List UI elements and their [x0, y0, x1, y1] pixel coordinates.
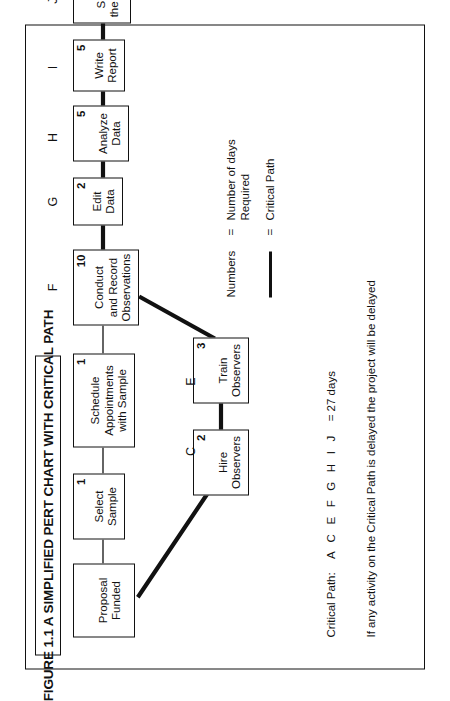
- legend-critical-path-swatch: [264, 235, 278, 297]
- legend-row-numbers: Numbers = Number of days Required: [225, 139, 253, 297]
- legend-numbers-equals: =: [225, 220, 239, 235]
- node-box-c[interactable]: 2 Hire Observers: [193, 429, 249, 495]
- node-days-b: 1: [75, 478, 88, 484]
- critical-path-note: If any activity on the Critical Path is …: [365, 280, 377, 637]
- node-label-e: Train Observers: [217, 338, 244, 402]
- legend-numbers-value: Number of days Required: [225, 139, 253, 220]
- node-label-i: Write Report: [93, 40, 120, 90]
- critical-path-summary-total: = 27 days: [325, 371, 337, 421]
- node-days-f: 10: [75, 254, 88, 267]
- legend-critical-path-value: Critical Path: [264, 158, 278, 220]
- node-box-j[interactable]: Submit the Report: [73, 0, 131, 23]
- node-box-h[interactable]: 5 Analyze Data: [73, 105, 129, 161]
- node-tag-j: J: [47, 0, 60, 14]
- figure-title-box: FIGURE 1.1 A SIMPLIFIED PERT CHART WITH …: [35, 355, 61, 655]
- node-box-g[interactable]: 2 Edit Data: [73, 177, 123, 225]
- node-label-a: Proposal Funded: [97, 564, 124, 636]
- legend-row-critical-path: = Critical Path: [264, 139, 278, 297]
- node-days-e: 3: [195, 342, 208, 348]
- node-box-e[interactable]: 3 Train Observers: [193, 337, 249, 403]
- node-days-h: 5: [75, 110, 88, 116]
- node-box-b[interactable]: 1 Select Sample: [73, 473, 125, 539]
- node-tag-i: I: [47, 53, 60, 81]
- critical-path-summary-sequence: A C E F G H I J: [325, 432, 337, 559]
- node-box-f[interactable]: 10 Conduct and Record Observations: [73, 249, 139, 325]
- node-label-f: Conduct and Record Observations: [93, 250, 134, 324]
- node-label-h: Analyze Data: [97, 106, 124, 160]
- legend-numbers-key: Numbers: [225, 235, 239, 297]
- node-box-a[interactable]: Proposal Funded: [73, 563, 135, 637]
- critical-path-line-icon: [269, 251, 272, 297]
- node-box-i[interactable]: 5 Write Report: [73, 39, 125, 91]
- node-tag-c: C: [185, 437, 198, 465]
- edge-e-f: [141, 297, 213, 337]
- pert-chart-figure: FIGURE 1.1 A SIMPLIFIED PERT CHART WITH …: [25, 24, 425, 669]
- node-label-g: Edit Data: [91, 178, 118, 224]
- node-days-g: 2: [75, 182, 88, 188]
- node-label-c: Hire Observers: [217, 430, 244, 494]
- node-days-i: 5: [75, 44, 88, 50]
- node-box-d[interactable]: 1 Schedule Appointments with Sample: [73, 353, 135, 447]
- node-tag-h: H: [47, 123, 60, 151]
- critical-path-summary-label: Critical Path:: [325, 572, 337, 637]
- node-label-b: Select Sample: [93, 474, 120, 538]
- page-title: FIGURE 1.1 A SIMPLIFIED PERT CHART WITH …: [41, 309, 56, 701]
- node-days-d: 1: [75, 358, 88, 364]
- legend-critical-path-equals: =: [264, 220, 278, 235]
- critical-path-summary: Critical Path: A C E F G H I J = 27 days: [325, 371, 337, 637]
- node-label-j: Submit the Report: [95, 0, 122, 22]
- node-tag-f: F: [47, 273, 60, 301]
- node-label-d: Schedule Appointments with Sample: [89, 354, 130, 446]
- node-tag-e: E: [185, 367, 198, 395]
- node-tag-g: G: [47, 187, 60, 215]
- legend: Numbers = Number of days Required = Crit…: [225, 139, 289, 297]
